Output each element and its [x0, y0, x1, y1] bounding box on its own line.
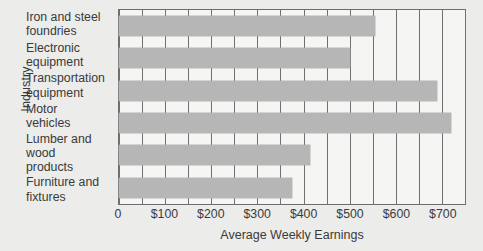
bar [119, 16, 375, 36]
x-tick-label: $100 [151, 207, 178, 221]
category-label: Furniture and fixtures [26, 174, 116, 205]
bar-row [119, 75, 465, 107]
bar-row [119, 42, 465, 74]
category-label: Motor vehicles [26, 101, 116, 132]
bar-row [119, 172, 465, 204]
bar-row [119, 139, 465, 171]
category-label: Transportation equipment [26, 70, 116, 101]
x-tick-label: $700 [429, 207, 456, 221]
bar-row [119, 10, 465, 42]
x-tick-label: $500 [336, 207, 363, 221]
category-label-list: Iron and steel foundriesElectronic equip… [26, 9, 116, 205]
x-axis-title: Average Weekly Earnings [118, 228, 466, 242]
x-tick-label: $400 [290, 207, 317, 221]
category-label: Electronic equipment [26, 40, 116, 71]
bar-row [119, 107, 465, 139]
x-tick-label: $300 [244, 207, 271, 221]
bar-chart: Industry Iron and steel foundriesElectro… [0, 0, 483, 251]
x-axis-tick-labels: 0$100$200$300$400$500$600$700 [118, 207, 466, 223]
bar [119, 178, 292, 198]
bar-series [119, 10, 465, 204]
bar [119, 145, 310, 165]
bar [119, 48, 350, 68]
bar [119, 81, 437, 101]
x-tick-label: 0 [115, 207, 122, 221]
x-tick-label: $600 [383, 207, 410, 221]
category-label: Iron and steel foundries [26, 9, 116, 40]
category-label: Lumber and wood products [26, 132, 116, 175]
gridline [465, 10, 466, 204]
x-tick-label: $200 [197, 207, 224, 221]
bar [119, 113, 451, 133]
plot-area [118, 9, 466, 205]
